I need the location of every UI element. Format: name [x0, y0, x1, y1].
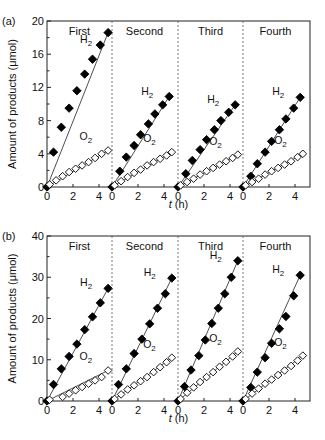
panel-label: (a) — [2, 15, 15, 27]
x-tick-label: 4 — [96, 190, 102, 202]
h2-label: H2 — [272, 263, 285, 278]
o2-data-point — [209, 164, 217, 172]
h2-label: H2 — [80, 276, 93, 291]
y-tick-label: 20 — [32, 313, 44, 325]
h2-data-point — [214, 304, 222, 312]
x-tick-label: 2 — [266, 404, 272, 416]
h2-data-point — [146, 320, 154, 328]
h2-data-point — [96, 299, 104, 307]
o2-data-point — [190, 175, 198, 183]
h2-data-point — [65, 352, 73, 360]
h2-data-point — [116, 167, 124, 175]
o2-label: O2 — [79, 130, 92, 145]
h2-data-point — [253, 160, 261, 168]
h2-data-point — [96, 41, 104, 49]
o2-data-point — [299, 352, 307, 360]
h2-data-point — [65, 104, 73, 112]
h2-data-point — [221, 290, 229, 298]
run-label: Fourth — [260, 240, 292, 252]
h2-label: H2 — [207, 93, 220, 108]
o2-data-point — [91, 154, 99, 162]
figure-canvas: (a)048121620Amount of products (μmol)t (… — [0, 0, 325, 440]
h2-data-point — [227, 273, 235, 281]
o2-data-point — [222, 157, 230, 165]
o2-label: O2 — [143, 338, 156, 353]
h2-label: H2 — [141, 85, 154, 100]
run-fourth: Fourth024H2O2 — [239, 21, 307, 202]
o2-data-point — [85, 158, 93, 166]
x-tick-label: 2 — [135, 190, 141, 202]
h2-data-point — [144, 120, 152, 128]
h2-data-point — [88, 313, 96, 321]
h2-data-point — [130, 141, 138, 149]
h2-fit-line — [47, 29, 109, 187]
o2-data-point — [104, 147, 112, 155]
h2-data-point — [290, 104, 298, 112]
h2-data-point — [49, 380, 57, 388]
h2-data-point — [151, 110, 159, 118]
y-tick-label: 16 — [32, 48, 44, 60]
h2-data-point — [49, 148, 57, 156]
x-tick-label: 4 — [96, 404, 102, 416]
h2-data-point — [234, 257, 242, 265]
h2-data-point — [165, 92, 173, 100]
panel-label: (b) — [2, 230, 15, 242]
h2-data-point — [130, 349, 138, 357]
o2-label: O2 — [79, 350, 92, 365]
x-tick-label: 2 — [201, 404, 207, 416]
run-third: Third024H2O2 — [174, 236, 242, 416]
y-tick-label: 12 — [32, 81, 44, 93]
chart-panel-a: (a)048121620Amount of products (μmol)t (… — [2, 15, 310, 210]
o2-label: O2 — [209, 135, 222, 150]
run-fourth: Fourth024H2O2 — [239, 236, 307, 416]
o2-label: O2 — [274, 336, 287, 351]
run-label: Second — [126, 25, 163, 37]
o2-data-point — [287, 362, 295, 370]
h2-data-point — [208, 319, 216, 327]
h2-data-point — [182, 170, 190, 178]
chart-panel-b: (b)010203040Amount of products (μmol)t (… — [2, 230, 310, 424]
y-tick-label: 4 — [38, 148, 44, 160]
h2-data-point — [231, 101, 239, 109]
h2-label: H2 — [272, 85, 285, 100]
h2-data-point — [57, 123, 65, 131]
x-tick-label: 4 — [161, 190, 167, 202]
x-tick-label: 4 — [292, 190, 298, 202]
o2-data-point — [104, 367, 112, 375]
h2-data-point — [88, 55, 96, 63]
h2-data-point — [187, 366, 195, 374]
h2-data-point — [275, 126, 283, 134]
run-label: First — [69, 240, 90, 252]
h2-data-point — [261, 148, 269, 156]
o2-data-point — [65, 168, 73, 176]
run-label: Third — [198, 25, 223, 37]
run-first: First024H2O2 — [43, 240, 113, 416]
h2-data-point — [210, 126, 218, 134]
o2-data-point — [255, 175, 263, 183]
o2-label: O2 — [209, 332, 222, 347]
y-tick-label: 20 — [32, 15, 44, 27]
o2-data-point — [143, 373, 151, 381]
h2-data-point — [168, 274, 176, 282]
h2-data-point — [217, 116, 225, 124]
h2-label: H2 — [80, 33, 93, 48]
y-tick-label: 30 — [32, 271, 44, 283]
o2-label: O2 — [274, 134, 287, 149]
o2-data-point — [203, 167, 211, 175]
h2-data-point — [261, 353, 269, 361]
y-tick-label: 8 — [38, 115, 44, 127]
y-axis-title: Amount of products (μmol) — [6, 39, 18, 169]
o2-data-point — [117, 177, 125, 185]
o2-data-point — [268, 167, 276, 175]
x-tick-label: 2 — [266, 190, 272, 202]
run-second: Second024H2O2 — [108, 21, 176, 202]
x-tick-label: 4 — [292, 404, 298, 416]
o2-data-point — [281, 161, 289, 169]
h2-data-point — [104, 28, 112, 36]
h2-data-point — [81, 70, 89, 78]
o2-data-point — [183, 178, 191, 186]
h2-data-point — [282, 115, 290, 123]
h2-data-point — [153, 304, 161, 312]
run-label: Fourth — [260, 25, 292, 37]
o2-data-point — [98, 373, 106, 381]
